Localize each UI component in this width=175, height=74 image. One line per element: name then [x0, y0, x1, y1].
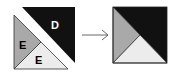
label-e-gray: E	[19, 39, 26, 51]
label-d: D	[51, 19, 59, 31]
right-figure	[113, 7, 167, 63]
label-e-light: E	[35, 54, 42, 66]
diagram-canvas: D E E	[0, 0, 175, 74]
left-figure: D E E	[14, 7, 75, 69]
arrow-right-icon	[82, 30, 108, 40]
